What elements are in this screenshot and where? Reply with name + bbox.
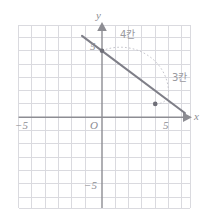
graph-figure: y x O −5 5 5 −5 4칸 3칸 bbox=[0, 0, 209, 222]
y-tick-label-neg5: −5 bbox=[84, 180, 97, 191]
graph-line bbox=[82, 36, 185, 113]
axis-lines bbox=[19, 30, 184, 208]
x-tick-label-5: 5 bbox=[163, 120, 169, 131]
point-second bbox=[153, 102, 158, 107]
point-y-intercept bbox=[100, 48, 105, 53]
horizontal-run-label: 4칸 bbox=[120, 30, 135, 40]
vertical-rise-label: 3칸 bbox=[172, 73, 187, 83]
origin-label: O bbox=[90, 120, 98, 131]
y-axis-arrow bbox=[97, 22, 107, 31]
coordinate-plane-svg bbox=[0, 0, 209, 222]
x-axis-label: x bbox=[194, 111, 199, 122]
y-tick-label-5: 5 bbox=[90, 41, 96, 52]
y-axis-label: y bbox=[96, 10, 101, 21]
x-tick-label-neg5: −5 bbox=[15, 120, 28, 131]
